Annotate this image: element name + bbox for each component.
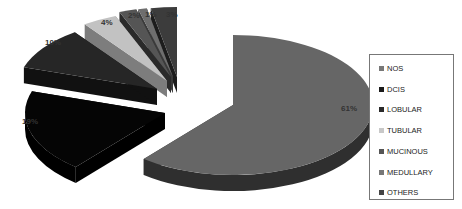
legend-item-tubular: TUBULAR	[379, 126, 422, 135]
legend-label: MUCINOUS	[387, 147, 428, 156]
label-medullary: 1%	[145, 10, 157, 19]
legend-label: DCIS	[387, 85, 405, 94]
legend-swatch	[379, 87, 384, 92]
legend-item-lobular: LOBULAR	[379, 105, 422, 114]
legend-swatch	[379, 107, 384, 112]
label-nos: 61%	[341, 104, 357, 113]
legend-swatch	[379, 66, 384, 71]
legend-swatch	[379, 190, 384, 195]
legend-swatch	[379, 128, 384, 133]
pie-slice-nos	[144, 35, 373, 191]
label-lobular: 10%	[45, 38, 61, 47]
label-mucinous: 2%	[128, 11, 140, 20]
legend-item-others: OTHERS	[379, 188, 418, 197]
legend-item-nos: NOS	[379, 64, 403, 73]
legend-swatch	[379, 149, 384, 154]
legend-label: OTHERS	[387, 188, 418, 197]
legend-label: LOBULAR	[387, 105, 422, 114]
legend-label: MEDULLARY	[387, 168, 433, 177]
label-others: 3%	[166, 10, 178, 19]
legend-item-mucinous: MUCINOUS	[379, 147, 428, 156]
legend-label: TUBULAR	[387, 126, 422, 135]
legend-label: NOS	[387, 64, 403, 73]
label-dcis: 19%	[22, 117, 38, 126]
legend-swatch	[379, 170, 384, 175]
chart-legend: NOS DCIS LOBULAR TUBULAR MUCINOUS MEDULL…	[369, 54, 454, 200]
legend-item-dcis: DCIS	[379, 85, 405, 94]
legend-item-medullary: MEDULLARY	[379, 168, 433, 177]
label-tubular: 4%	[101, 18, 113, 27]
